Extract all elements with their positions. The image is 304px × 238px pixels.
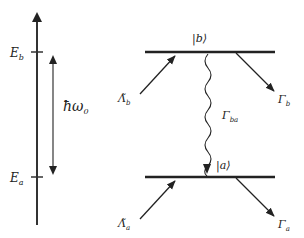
decay-b-arrow: Γb (236, 53, 291, 108)
two-level-diagram: Eb Ea ħω0 |b⟩ |a⟩ Λ̃b Γb Γba Λ̃a (0, 0, 304, 238)
label-ket-a: |a⟩ (216, 159, 231, 173)
label-lambda-a: Λ̃a (117, 217, 130, 232)
label-hbar-omega: ħω0 (63, 98, 89, 116)
label-ea: Ea (9, 171, 24, 187)
pump-b-arrow: Λ̃b (117, 56, 175, 107)
axis-arrowhead-icon (32, 12, 42, 22)
energy-axis: Eb Ea (9, 12, 43, 225)
label-ket-b: |b⟩ (192, 32, 207, 46)
decay-ba-wavy-arrow: Γba (203, 54, 238, 176)
label-eb: Eb (9, 46, 24, 62)
label-gamma-a: Γa (277, 218, 290, 233)
pump-a-arrow: Λ̃a (117, 181, 175, 232)
label-gamma-ba: Γba (221, 109, 238, 124)
label-gamma-b: Γb (277, 93, 291, 108)
label-lambda-b: Λ̃b (117, 92, 131, 107)
level-b: |b⟩ (145, 32, 275, 52)
transition-energy-arrow: ħω0 (49, 55, 89, 175)
decay-a-arrow: Γa (236, 178, 290, 233)
wavy-arrowhead-icon (203, 164, 211, 174)
